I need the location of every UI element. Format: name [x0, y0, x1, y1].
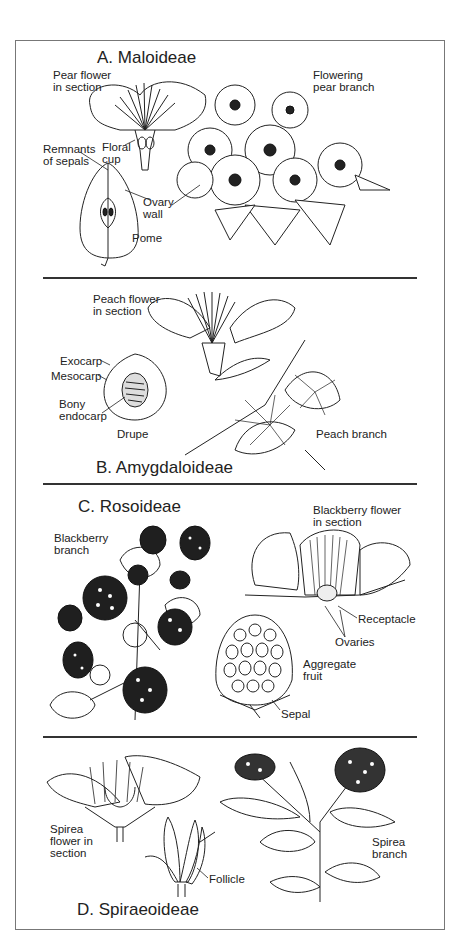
leader-lines-d [0, 0, 460, 941]
